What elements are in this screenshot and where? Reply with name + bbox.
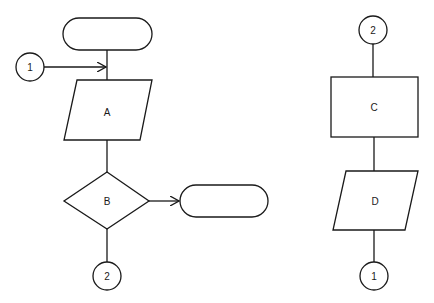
exit-connector-2-label: 2: [104, 271, 110, 282]
exit-connector-2[interactable]: 2: [93, 262, 121, 290]
process-c-label: C: [370, 102, 377, 113]
right-flow: 2 C D 1: [331, 16, 418, 290]
process-c-rectangle[interactable]: C: [331, 77, 418, 137]
flowchart-canvas: 1 A B 2 2: [0, 0, 434, 303]
entry-connector-1[interactable]: 1: [16, 53, 44, 81]
start-terminal[interactable]: [63, 18, 152, 50]
process-a-label: A: [104, 107, 111, 118]
entry-connector-1-label: 1: [27, 62, 33, 73]
process-d-label: D: [371, 196, 378, 207]
entry-connector-2-label: 2: [370, 25, 376, 36]
decision-b-label: B: [104, 196, 111, 207]
process-d-parallelogram[interactable]: D: [333, 171, 418, 230]
entry-connector-2[interactable]: 2: [359, 16, 387, 44]
exit-connector-1[interactable]: 1: [360, 262, 388, 290]
process-a-parallelogram[interactable]: A: [64, 80, 152, 140]
left-flow: 1 A B 2: [16, 18, 268, 290]
decision-b-diamond[interactable]: B: [64, 172, 149, 229]
exit-terminal[interactable]: [180, 185, 268, 217]
exit-connector-1-label: 1: [371, 271, 377, 282]
